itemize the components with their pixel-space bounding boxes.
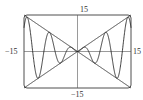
tick-label-top: 15 — [80, 5, 88, 14]
tick-label-right: 15 — [133, 47, 141, 56]
chart: 15 −15 −15 15 — [0, 0, 143, 100]
tick-label-bottom: −15 — [71, 90, 84, 99]
tick-label-left: −15 — [5, 47, 18, 56]
